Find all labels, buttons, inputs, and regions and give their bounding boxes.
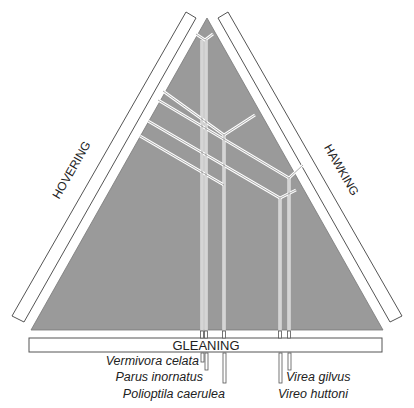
gleaning-label: GLEANING <box>172 338 239 353</box>
species-label-vireo-huttoni: Vireo huttoni <box>278 387 349 401</box>
species-leaders <box>201 353 291 383</box>
species-label-parus: Parus inornatus <box>115 370 203 384</box>
species-label-vermivora: Vermivora celata <box>106 354 199 368</box>
gleaning-ticks <box>201 331 291 338</box>
species-label-virea-gilvus: Virea gilvus <box>286 370 350 384</box>
species-label-polioptila: Polioptila caerulea <box>123 387 225 401</box>
ternary-diagram: HOVERING HAWKING GLEANING Vermivora cela… <box>0 0 414 408</box>
